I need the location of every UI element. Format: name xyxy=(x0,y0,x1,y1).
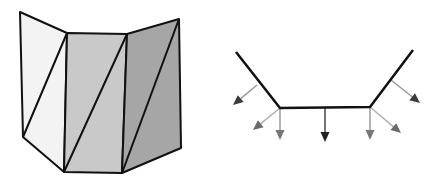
vertex-normal-right-vertical-arrow xyxy=(366,107,375,140)
folded-surface-diagram xyxy=(20,12,181,173)
figure-svg xyxy=(0,0,434,184)
vertex-normal-left-vertical-arrow xyxy=(276,108,285,140)
figure-canvas xyxy=(0,0,434,184)
normals-cross-section-diagram xyxy=(233,50,420,142)
cross-section-polyline xyxy=(236,50,413,108)
face-normal-left-arrow xyxy=(233,85,257,105)
vertex-normal-right-diagonal-arrow xyxy=(370,107,401,133)
vertex-normal-left-diagonal-arrow xyxy=(253,108,280,130)
face-normal-right-arrow xyxy=(391,80,420,103)
left-panel xyxy=(20,12,67,172)
face-normal-bottom-arrow xyxy=(321,108,330,142)
